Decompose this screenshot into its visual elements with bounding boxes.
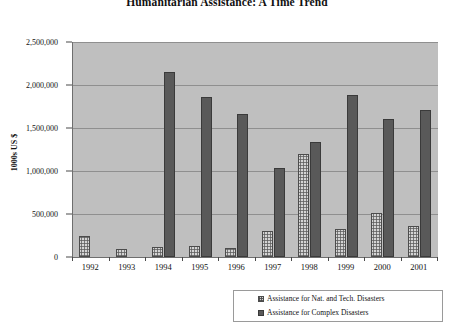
bar-group — [256, 42, 293, 257]
x-tick-mark — [109, 257, 110, 261]
y-tick-label: 2,500,000 — [26, 38, 58, 47]
bar-complex-disasters — [237, 114, 248, 257]
x-tick-mark — [437, 257, 438, 261]
x-tick-label: 1998 — [291, 262, 327, 272]
bar-natural-tech-disasters — [189, 246, 200, 257]
x-tick-mark — [291, 257, 292, 261]
x-tick-label: 2000 — [364, 262, 400, 272]
x-tick-mark — [255, 257, 256, 261]
bar-natural-tech-disasters — [335, 229, 346, 257]
x-tick-label: 1995 — [182, 262, 218, 272]
legend-label: Assistance for Nat. and Tech. Disasters — [267, 295, 384, 303]
x-tick-label: 1993 — [109, 262, 145, 272]
bar-complex-disasters — [347, 95, 358, 257]
legend-swatch-natural-icon — [258, 296, 264, 302]
x-tick-mark — [218, 257, 219, 261]
y-tick-label: 1,500,000 — [26, 124, 58, 133]
y-tick-label: 2,000,000 — [26, 81, 58, 90]
x-tick-label: 1999 — [328, 262, 364, 272]
x-tick-mark — [401, 257, 402, 261]
bar-group — [110, 42, 147, 257]
y-axis: 0500,0001,000,0001,500,0002,000,0002,500… — [0, 42, 66, 257]
x-tick-mark — [364, 257, 365, 261]
bar-complex-disasters — [310, 142, 321, 257]
x-tick-mark — [182, 257, 183, 261]
bar-natural-tech-disasters — [116, 249, 127, 257]
bar-natural-tech-disasters — [408, 226, 419, 257]
bar-natural-tech-disasters — [371, 213, 382, 257]
bar-complex-disasters — [274, 168, 285, 257]
x-tick-label: 1997 — [255, 262, 291, 272]
x-tick-mark — [328, 257, 329, 261]
bar-complex-disasters — [420, 110, 431, 257]
bar-group — [219, 42, 256, 257]
bar-group — [73, 42, 110, 257]
y-tick-label: 1,000,000 — [26, 167, 58, 176]
humanitarian-assistance-chart: Humanitarian Assistance: A Time Trend 10… — [0, 0, 454, 335]
bar-natural-tech-disasters — [262, 231, 273, 257]
x-tick-label: 2001 — [401, 262, 437, 272]
x-tick-label: 1996 — [218, 262, 254, 272]
bar-natural-tech-disasters — [152, 247, 163, 257]
y-tick-label: 500,000 — [32, 210, 58, 219]
chart-title: Humanitarian Assistance: A Time Trend — [0, 0, 454, 8]
bar-group — [146, 42, 183, 257]
x-tick-mark — [145, 257, 146, 261]
legend-entry: Assistance for Nat. and Tech. Disasters — [258, 295, 384, 303]
bar-complex-disasters — [164, 72, 175, 257]
bar-natural-tech-disasters — [298, 154, 309, 257]
bar-group — [365, 42, 402, 257]
legend-label: Assistance for Complex Disasters — [267, 309, 368, 317]
bar-complex-disasters — [201, 97, 212, 257]
bar-group — [183, 42, 220, 257]
bar-group — [329, 42, 366, 257]
x-tick-label: 1994 — [145, 262, 181, 272]
legend-entry: Assistance for Complex Disasters — [258, 309, 368, 317]
x-tick-mark — [72, 257, 73, 261]
plot-area — [72, 42, 438, 258]
x-axis: 1992199319941995199619971998199920002001 — [72, 262, 437, 278]
bar-group — [292, 42, 329, 257]
legend-swatch-complex-icon — [258, 310, 264, 316]
x-tick-label: 1992 — [72, 262, 108, 272]
bar-group — [402, 42, 439, 257]
chart-legend: Assistance for Nat. and Tech. DisastersA… — [233, 290, 443, 322]
y-tick-label: 0 — [54, 253, 58, 262]
bar-complex-disasters — [383, 119, 394, 257]
bar-natural-tech-disasters — [225, 248, 236, 257]
bar-natural-tech-disasters — [79, 236, 90, 257]
